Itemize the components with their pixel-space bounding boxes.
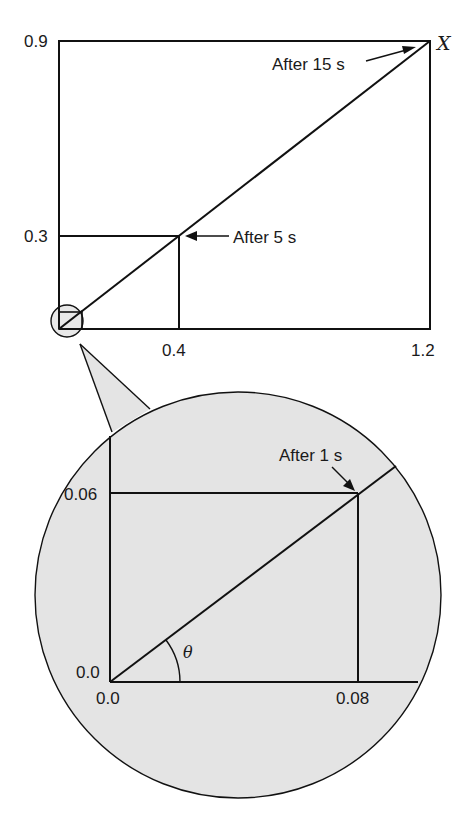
main-plot: [59, 41, 430, 329]
endpoint-label-x: X: [437, 34, 451, 53]
inset-x-tick-0.0: 0.0: [96, 690, 120, 707]
path-line: [59, 41, 430, 329]
y-tick-0.9: 0.9: [24, 33, 48, 50]
displacement-diagram: [0, 0, 461, 828]
annotation-after-15s: After 15 s: [272, 56, 345, 73]
inset-y-tick-0.0: 0.0: [76, 664, 100, 681]
magnifier-circle: [35, 392, 441, 798]
magnifier-callout: [35, 344, 441, 798]
angle-theta-label: θ: [183, 645, 193, 661]
inset-x-tick-0.08: 0.08: [336, 690, 369, 707]
y-tick-0.3: 0.3: [24, 228, 48, 245]
arrowhead-after-5: [185, 231, 197, 241]
inset-y-tick-0.06: 0.06: [64, 486, 97, 503]
zoom-region-marker: [51, 300, 90, 337]
annotation-after-1s: After 1 s: [279, 447, 342, 464]
zoom-region-circle: [51, 305, 83, 337]
x-tick-1.2: 1.2: [411, 342, 435, 359]
annotation-after-5s: After 5 s: [233, 229, 296, 246]
x-tick-0.4: 0.4: [162, 342, 186, 359]
